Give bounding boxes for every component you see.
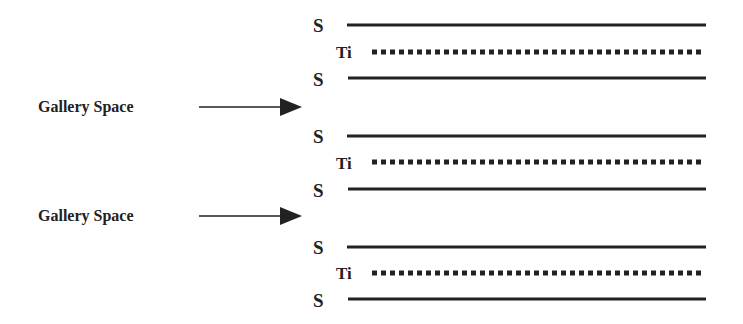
s-label: S	[313, 291, 324, 310]
s-label: S	[313, 238, 324, 257]
arrow-head-icon	[280, 207, 302, 225]
ti-label: Ti	[336, 155, 352, 172]
s-label: S	[313, 181, 324, 200]
ti-label: Ti	[336, 265, 352, 282]
gallery-space-label: Gallery Space	[38, 99, 134, 115]
s-label: S	[313, 70, 324, 89]
gallery-space-label: Gallery Space	[38, 208, 134, 224]
diagram-lines	[0, 0, 743, 324]
s-label: S	[313, 127, 324, 146]
arrow-head-icon	[280, 98, 302, 116]
s-label: S	[313, 16, 324, 35]
ti-label: Ti	[336, 44, 352, 61]
